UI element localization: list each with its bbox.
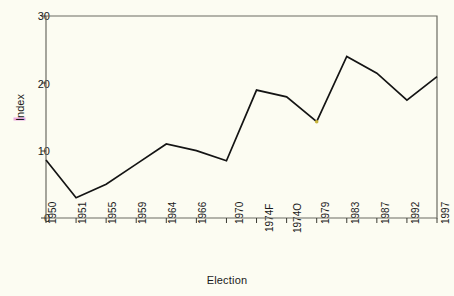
chart-container: Index 30 20 10 0 1950 1951 1955 1959 196… bbox=[0, 0, 454, 296]
x-tick-marks bbox=[46, 218, 437, 223]
data-point-marker-1979 bbox=[315, 120, 319, 124]
y-tick-marks bbox=[41, 16, 46, 218]
axis-frame bbox=[46, 16, 437, 218]
data-series-line bbox=[46, 56, 437, 197]
plot-area bbox=[0, 0, 454, 296]
